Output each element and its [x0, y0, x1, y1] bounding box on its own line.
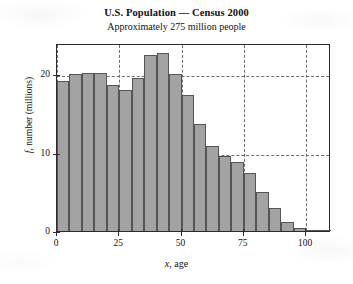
histogram-bar [132, 78, 144, 231]
plot-area [56, 44, 330, 232]
x-axis-tick-label: 50 [166, 238, 196, 248]
histogram-bar [269, 208, 281, 232]
histogram-bar [107, 85, 119, 231]
histogram-bar [244, 173, 256, 231]
y-axis-ticks [56, 44, 66, 232]
histogram-bar [82, 73, 94, 231]
histogram-bar [119, 90, 131, 231]
x-axis-tick-label: 100 [290, 238, 320, 248]
histogram-bar [69, 74, 81, 231]
histogram-bar [182, 95, 194, 231]
histogram-bar [169, 74, 181, 231]
histogram-bar [319, 230, 331, 231]
histogram-bar [194, 124, 206, 231]
x-axis-tick-label: 0 [41, 238, 71, 248]
x-axis-tick-labels: 0255075100 [56, 238, 330, 254]
y-axis-tick-label: 0 [24, 226, 50, 236]
y-axis-label: f, number (millions) [24, 40, 34, 190]
histogram-bar [206, 146, 218, 231]
y-axis-tick-mark [53, 75, 60, 76]
histogram-bar [256, 192, 268, 231]
x-axis-tick-mark [118, 229, 119, 236]
histogram-bar [144, 55, 156, 231]
x-axis-tick-label: 75 [228, 238, 258, 248]
x-axis-label: x, age [0, 258, 353, 269]
chart-title: U.S. Population — Census 2000 [0, 6, 353, 19]
histogram-bar [157, 53, 169, 231]
histogram-bar [94, 73, 106, 231]
x-axis-tick-label: 25 [103, 238, 133, 248]
y-axis-tick-mark [53, 154, 60, 155]
x-axis-tick-mark [56, 229, 57, 236]
x-axis-tick-mark [305, 229, 306, 236]
histogram-bars [57, 45, 329, 231]
x-axis-label-rest: , age [169, 258, 188, 269]
histogram-bar [219, 156, 231, 231]
x-axis-tick-mark [243, 229, 244, 236]
histogram-bar [281, 222, 293, 231]
histogram-bar [231, 162, 243, 231]
chart-subtitle: Approximately 275 million people [0, 20, 353, 33]
y-axis-label-rest: , number (millions) [24, 77, 34, 151]
y-axis-label-var: f [24, 151, 34, 154]
x-axis-tick-mark [181, 229, 182, 236]
chart-title-block: U.S. Population — Census 2000 Approximat… [0, 6, 353, 33]
histogram-bar [306, 230, 318, 231]
